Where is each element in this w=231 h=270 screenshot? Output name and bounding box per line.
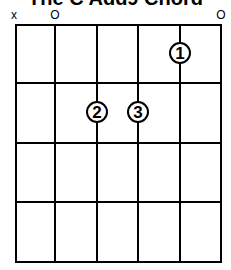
finger-number: 2 bbox=[92, 103, 101, 122]
finger-number: 1 bbox=[175, 44, 184, 63]
finger-number: 3 bbox=[133, 103, 142, 122]
muted-string-marker: x bbox=[11, 8, 17, 22]
open-string-marker: O bbox=[50, 8, 59, 22]
open-string-marker: O bbox=[216, 8, 225, 22]
chord-diagram: xOO123 bbox=[0, 0, 231, 270]
